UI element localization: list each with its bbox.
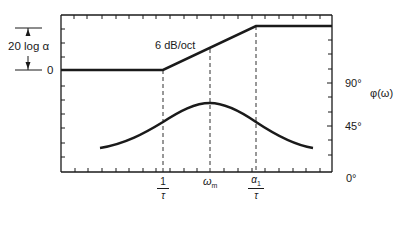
arrow-up-icon <box>26 29 31 36</box>
marker-omega-m-symbol: ω <box>203 175 212 187</box>
arrow-down-icon <box>26 62 31 69</box>
gain-bracket-label: 20 log α <box>8 41 49 53</box>
marker-corner-high-sub: 1 <box>257 180 261 187</box>
marker-omega-m: ωm <box>203 176 217 189</box>
phase-tick-45: 45° <box>345 121 362 132</box>
phase-tick-90: 90° <box>345 78 362 89</box>
marker-corner-high-den: τ <box>248 189 264 201</box>
phase-axis-title: φ(ω) <box>370 88 393 99</box>
marker-corner-high: α1 τ <box>248 175 264 201</box>
phase-curve <box>100 103 313 148</box>
marker-omega-m-sub: m <box>212 182 218 189</box>
slope-label: 6 dB/oct <box>155 40 195 51</box>
marker-corner-high-num: α1 <box>248 175 264 189</box>
marker-corner-low-den: τ <box>157 189 169 201</box>
phase-tick-0: 0° <box>346 173 357 184</box>
right-axis-ticks <box>327 40 332 155</box>
marker-corner-low-num: 1 <box>157 177 169 189</box>
marker-corner-low: 1 τ <box>157 177 169 201</box>
magnitude-curve <box>61 26 332 70</box>
zero-db-label: 0 <box>47 65 53 77</box>
